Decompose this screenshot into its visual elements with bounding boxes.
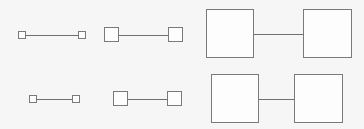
- connector-edge-r1c2: [119, 35, 168, 36]
- node-left-r2c1[interactable]: [29, 95, 37, 103]
- node-left-r2c3[interactable]: [211, 74, 259, 123]
- diagram-canvas: [0, 0, 364, 129]
- node-left-r2c2[interactable]: [113, 91, 128, 106]
- node-right-r2c1[interactable]: [72, 95, 80, 103]
- node-right-r2c3[interactable]: [294, 74, 343, 123]
- connector-edge-r1c1: [26, 35, 78, 36]
- node-right-r1c2[interactable]: [168, 27, 183, 42]
- connector-edge-r1c3: [254, 34, 303, 35]
- node-right-r1c3[interactable]: [303, 9, 352, 58]
- node-left-r1c2[interactable]: [104, 27, 119, 42]
- node-left-r1c1[interactable]: [18, 31, 26, 39]
- node-right-r1c1[interactable]: [78, 31, 86, 39]
- node-right-r2c2[interactable]: [167, 91, 182, 106]
- node-left-r1c3[interactable]: [206, 9, 254, 58]
- connector-edge-r2c1: [37, 99, 72, 100]
- connector-edge-r2c2: [128, 99, 167, 100]
- connector-edge-r2c3: [259, 99, 294, 100]
